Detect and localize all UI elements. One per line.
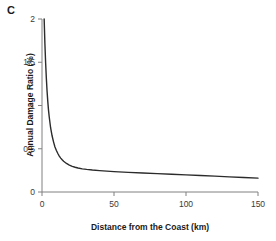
x-tick-label: 50 [109,199,119,209]
data-series [44,19,258,178]
y-tick-label: 1.5 [23,57,35,67]
x-axis: 050100150 [40,192,266,209]
x-tick-label: 0 [40,199,45,209]
chart-figure: C Annual Damage Ratio (%) Distance from … [0,0,276,241]
y-tick-label: 0.5 [23,144,35,154]
y-axis: 00.511.52 [23,14,42,197]
y-tick-label: 2 [30,14,35,24]
y-tick-label: 0 [30,187,35,197]
x-tick-label: 100 [179,199,193,209]
series-line [44,19,258,178]
x-tick-label: 150 [251,199,265,209]
y-tick-label: 1 [30,101,35,111]
plot-area: 00.511.52 050100150 [0,0,276,241]
